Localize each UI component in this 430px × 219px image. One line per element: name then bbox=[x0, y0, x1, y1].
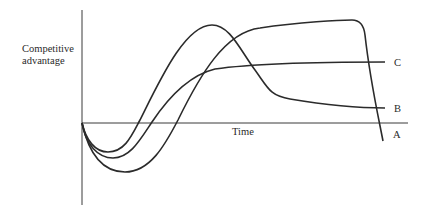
series-label-b: B bbox=[394, 103, 401, 115]
x-axis-label: Time bbox=[232, 126, 254, 138]
y-axis-label-line1: Competitive bbox=[22, 43, 74, 55]
y-axis-label-line2: advantage bbox=[22, 55, 74, 67]
series-label-c: C bbox=[394, 57, 401, 69]
y-axis-label: Competitive advantage bbox=[22, 43, 74, 67]
competitive-advantage-diagram bbox=[0, 0, 430, 219]
curve-a bbox=[82, 20, 383, 172]
curve-c bbox=[82, 62, 385, 158]
series-label-a: A bbox=[393, 129, 401, 141]
